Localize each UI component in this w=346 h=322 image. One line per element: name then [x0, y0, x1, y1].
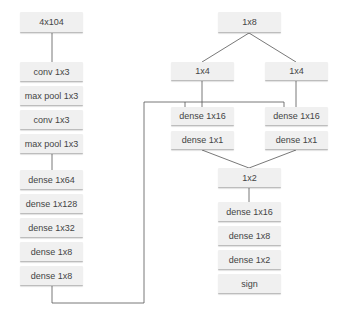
node-dense-1x128: dense 1x128: [20, 194, 83, 214]
node-dense-1x8: dense 1x8: [20, 266, 83, 286]
node-dense-1x1: dense 1x1: [171, 131, 234, 150]
node-dense-1x16: dense 1x16: [218, 202, 281, 222]
node-1x4: 1x4: [265, 62, 328, 81]
node-dense-1x32: dense 1x32: [20, 218, 83, 238]
node-dense-1x64: dense 1x64: [20, 170, 83, 190]
node-1x8: 1x8: [218, 12, 281, 33]
node-max-pool-1x3: max pool 1x3: [20, 86, 83, 106]
node-sign: sign: [218, 274, 281, 294]
node-dense-1x8: dense 1x8: [20, 242, 83, 262]
node-4x104: 4x104: [20, 12, 83, 33]
node-max-pool-1x3: max pool 1x3: [20, 134, 83, 154]
node-dense-1x16: dense 1x16: [171, 107, 234, 126]
node-dense-1x16: dense 1x16: [265, 107, 328, 126]
node-conv-1x3: conv 1x3: [20, 62, 83, 82]
node-1x2: 1x2: [218, 168, 281, 188]
node-conv-1x3: conv 1x3: [20, 110, 83, 130]
node-dense-1x2: dense 1x2: [218, 250, 281, 270]
node-dense-1x8: dense 1x8: [218, 226, 281, 246]
node-dense-1x1: dense 1x1: [265, 131, 328, 150]
node-1x4: 1x4: [171, 62, 234, 81]
